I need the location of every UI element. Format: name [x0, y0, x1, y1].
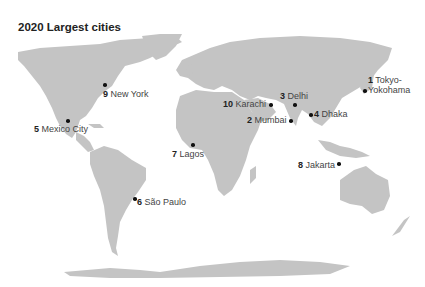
- marker-mexico-city[interactable]: [66, 119, 70, 123]
- label-jakarta: 8 Jakarta: [298, 160, 335, 170]
- label-sao-paulo: 6 São Paulo: [137, 197, 186, 207]
- marker-mumbai[interactable]: [289, 119, 293, 123]
- label-lagos: 7 Lagos: [172, 149, 204, 159]
- marker-tokyo[interactable]: [363, 89, 367, 93]
- label-delhi: 3 Delhi: [280, 91, 308, 101]
- caribbean: [88, 124, 104, 128]
- indonesia: [318, 140, 370, 158]
- marker-delhi[interactable]: [293, 103, 297, 107]
- marker-sao-paulo[interactable]: [133, 197, 137, 201]
- label-new-york: 9 New York: [103, 89, 149, 99]
- label-dhaka: 4 Dhaka: [314, 109, 348, 119]
- marker-dhaka[interactable]: [309, 113, 313, 117]
- marker-jakarta[interactable]: [337, 162, 341, 166]
- marker-new-york[interactable]: [103, 83, 107, 87]
- label-mumbai: 2 Mumbai: [247, 115, 287, 125]
- madagascar: [250, 166, 256, 184]
- australia: [340, 166, 390, 214]
- antarctica: [64, 260, 350, 278]
- marker-karachi[interactable]: [269, 103, 273, 107]
- central-america: [76, 132, 94, 152]
- new-zealand: [392, 216, 410, 236]
- label-tokyo: 1 Tokyo- Yokohama: [368, 75, 410, 95]
- label-karachi: 10 Karachi: [223, 99, 266, 109]
- label-mexico-city: 5 Mexico City: [34, 124, 88, 134]
- world-map: [0, 0, 425, 287]
- marker-lagos[interactable]: [191, 143, 195, 147]
